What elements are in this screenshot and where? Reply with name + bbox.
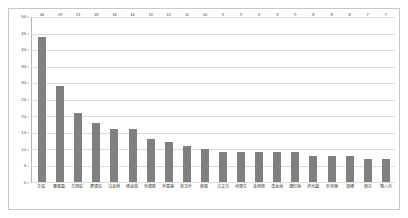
plot-area: 442921181616131211109999988877 [31, 17, 395, 183]
x-axis-tick-label: 隋八炎 [380, 185, 392, 189]
x-axis-label-slot: 谭红梅 [286, 185, 304, 189]
x-axis-label-slot: 金柄辉 [250, 185, 268, 189]
bar-slot[interactable]: 13 [142, 17, 160, 182]
bar[interactable] [291, 152, 299, 182]
bar-slot[interactable]: 9 [214, 17, 232, 182]
y-axis-tick-mark [27, 33, 29, 34]
y-axis-labels: 05101520253035404550 [9, 17, 29, 183]
bar-slot[interactable]: 44 [33, 17, 51, 182]
x-axis-tick-label: 薛春 [201, 185, 209, 189]
x-axis-tick-label: 谭红梅 [289, 185, 301, 189]
bar-slot[interactable]: 8 [323, 17, 341, 182]
bar-slot[interactable]: 10 [196, 17, 214, 182]
bar[interactable] [364, 159, 372, 182]
bar[interactable] [255, 152, 263, 182]
bar[interactable] [328, 156, 336, 182]
bar-slot[interactable]: 29 [51, 17, 69, 182]
x-axis-label-slot: 翟建柱 [86, 185, 104, 189]
bar-value-label: 9 [258, 13, 260, 17]
x-axis-tick-label: 杨金软 [126, 185, 138, 189]
x-axis-tick-label: 马金林 [108, 185, 120, 189]
x-axis-tick-label: 温龙海 [271, 185, 283, 189]
y-axis-tick-label: 25 [21, 98, 26, 102]
gridline [32, 182, 395, 183]
bar-slot[interactable]: 8 [304, 17, 322, 182]
bar-value-label: 7 [367, 13, 369, 17]
y-axis-tick-label: 20 [21, 114, 26, 118]
bar[interactable] [165, 142, 173, 182]
x-axis-tick-label: 朴宋楠 [326, 185, 338, 189]
y-axis-tick-mark [27, 83, 29, 84]
bar-slot[interactable]: 9 [286, 17, 304, 182]
bar-slot[interactable]: 11 [178, 17, 196, 182]
x-axis-label-slot: 梁穗 [341, 185, 359, 189]
bar[interactable] [74, 113, 82, 182]
x-axis-label-slot: 何更生 [232, 185, 250, 189]
bar-slot[interactable]: 8 [341, 17, 359, 182]
bar-value-label: 8 [312, 13, 314, 17]
x-axis-label-slot: 温龙海 [268, 185, 286, 189]
y-axis-tick-label: 10 [21, 148, 26, 152]
bar-slot[interactable]: 12 [160, 17, 178, 182]
y-axis-tick-label: 45 [21, 31, 26, 35]
bar[interactable] [56, 86, 64, 182]
bar-value-label: 9 [240, 13, 242, 17]
bar-value-label: 10 [203, 13, 207, 17]
bar[interactable] [237, 152, 245, 182]
bar-slot[interactable]: 16 [123, 17, 141, 182]
bar[interactable] [309, 156, 317, 182]
bar-slot[interactable]: 16 [105, 17, 123, 182]
y-axis-tick-mark [27, 50, 29, 51]
bar[interactable] [273, 152, 281, 182]
y-axis-tick-label: 35 [21, 65, 26, 69]
bar[interactable] [129, 129, 137, 182]
bar-slot[interactable]: 9 [268, 17, 286, 182]
bar-series: 442921181616131211109999988877 [33, 17, 395, 182]
bar-value-label: 8 [330, 13, 332, 17]
bar[interactable] [346, 156, 354, 182]
y-axis-tick-mark [27, 116, 29, 117]
bar[interactable] [110, 129, 118, 182]
x-axis-labels: 王成曹春磊王国虹翟建柱马金林杨金软孙德胜孙意霖张玉叶薛春汪文凡何更生金柄辉温龙海… [32, 185, 395, 207]
bar[interactable] [382, 159, 390, 182]
x-axis-tick-label: 孙意霖 [162, 185, 174, 189]
bar[interactable] [219, 152, 227, 182]
bar-value-label: 18 [94, 13, 98, 17]
bar-value-label: 44 [40, 13, 44, 17]
y-axis-tick-label: 0 [24, 181, 26, 185]
bar-value-label: 7 [385, 13, 387, 17]
x-axis-tick-label: 王成 [37, 185, 45, 189]
x-axis-tick-label: 金柄辉 [253, 185, 265, 189]
x-axis-label-slot: 孙德胜 [141, 185, 159, 189]
x-axis-label-slot: 曹春磊 [50, 185, 68, 189]
x-axis-label-slot: 薛春 [195, 185, 213, 189]
bar-slot[interactable]: 7 [377, 17, 395, 182]
bar-slot[interactable]: 7 [359, 17, 377, 182]
bar-slot[interactable]: 21 [69, 17, 87, 182]
bar-value-label: 9 [222, 13, 224, 17]
bar-value-label: 11 [185, 13, 189, 17]
bar[interactable] [201, 149, 209, 182]
x-axis-label-slot: 韩东 [359, 185, 377, 189]
y-axis-tick-mark [27, 166, 29, 167]
x-axis-tick-label: 梁穗 [346, 185, 354, 189]
y-axis-tick-label: 40 [21, 48, 26, 52]
bar-value-label: 9 [294, 13, 296, 17]
bar-value-label: 21 [76, 13, 80, 17]
bar-slot[interactable]: 9 [232, 17, 250, 182]
x-axis-tick-label: 韩东 [364, 185, 372, 189]
y-axis-tick-mark [27, 183, 29, 184]
bar[interactable] [147, 139, 155, 182]
y-axis-tick-label: 15 [21, 131, 26, 135]
bar-slot[interactable]: 9 [250, 17, 268, 182]
x-axis-label-slot: 王国虹 [68, 185, 86, 189]
y-axis-tick-label: 30 [21, 81, 26, 85]
x-axis-tick-label: 尹光越 [308, 185, 320, 189]
bar[interactable] [92, 123, 100, 182]
bar[interactable] [38, 37, 46, 182]
chart-plot-wrapper: 05101520253035404550 4429211816161312111… [9, 9, 399, 209]
bar-value-label: 16 [112, 13, 116, 17]
bar[interactable] [183, 146, 191, 182]
bar-slot[interactable]: 18 [87, 17, 105, 182]
x-axis-label-slot: 孙意霖 [159, 185, 177, 189]
